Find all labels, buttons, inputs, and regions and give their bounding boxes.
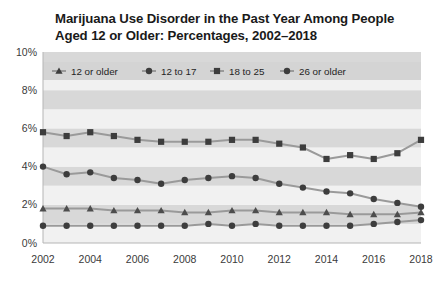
x-tick-label: 2002 xyxy=(31,253,55,265)
data-point-marker xyxy=(229,173,235,179)
data-point-marker xyxy=(40,129,46,135)
data-point-marker xyxy=(229,137,235,143)
y-tick-label: 0% xyxy=(22,237,37,249)
data-point-marker xyxy=(87,223,93,229)
legend-label: 12 or older xyxy=(71,66,119,77)
y-tick-label: 4% xyxy=(22,160,37,172)
x-tick-label: 2004 xyxy=(79,253,103,265)
x-tick-label: 2008 xyxy=(173,253,197,265)
data-point-marker xyxy=(276,181,282,187)
x-tick-label: 2016 xyxy=(362,253,386,265)
data-point-marker xyxy=(205,221,211,227)
data-point-marker xyxy=(418,217,424,223)
x-tick-label: 2006 xyxy=(126,253,150,265)
legend-label: 26 or older xyxy=(299,66,347,77)
data-point-marker xyxy=(347,152,353,158)
data-point-marker xyxy=(276,223,282,229)
data-point-marker xyxy=(134,137,140,143)
data-point-marker xyxy=(134,223,140,229)
data-point-marker xyxy=(300,184,306,190)
data-point-marker xyxy=(252,175,258,181)
data-point-marker xyxy=(253,137,259,143)
data-point-marker xyxy=(229,223,235,229)
legend-marker-square-icon xyxy=(214,68,220,74)
legend-marker-circle-icon xyxy=(284,68,290,74)
y-tick-label: 2% xyxy=(22,198,37,210)
x-tick-label: 2014 xyxy=(315,253,339,265)
data-point-marker xyxy=(111,223,117,229)
data-point-marker xyxy=(64,133,70,139)
data-point-marker xyxy=(418,204,424,210)
data-point-marker xyxy=(347,190,353,196)
y-axis-tick-labels: 0%2%4%6%8%10% xyxy=(16,46,37,249)
x-tick-label: 2010 xyxy=(220,253,244,265)
data-point-marker xyxy=(276,141,282,147)
data-point-marker xyxy=(63,223,69,229)
data-point-marker xyxy=(87,169,93,175)
data-point-marker xyxy=(252,221,258,227)
y-tick-label: 6% xyxy=(22,122,37,134)
data-point-marker xyxy=(158,223,164,229)
data-point-marker xyxy=(205,139,211,145)
x-tick-label: 2012 xyxy=(268,253,292,265)
data-point-marker xyxy=(87,129,93,135)
data-point-marker xyxy=(300,144,306,150)
data-point-marker xyxy=(40,163,46,169)
data-point-marker xyxy=(418,137,424,143)
data-point-marker xyxy=(205,175,211,181)
line-chart-plot: 0%2%4%6%8%10% 20022004200620082010201220… xyxy=(0,0,438,301)
data-point-marker xyxy=(40,223,46,229)
data-point-marker xyxy=(323,223,329,229)
data-point-marker xyxy=(158,181,164,187)
data-point-marker xyxy=(111,175,117,181)
legend-label: 18 to 25 xyxy=(229,66,265,77)
y-tick-label: 10% xyxy=(16,46,37,58)
data-point-marker xyxy=(182,139,188,145)
chart-figure: Marijuana Use Disorder in the Past Year … xyxy=(0,0,438,301)
x-axis-tick-labels: 200220042006200820102012201420162018 xyxy=(31,253,433,265)
data-point-marker xyxy=(394,219,400,225)
data-point-marker xyxy=(347,223,353,229)
data-point-marker xyxy=(182,223,188,229)
legend-marker-circle-icon xyxy=(146,68,152,74)
data-point-marker xyxy=(371,156,377,162)
data-point-marker xyxy=(111,133,117,139)
data-point-marker xyxy=(323,156,329,162)
data-point-marker xyxy=(371,221,377,227)
data-point-marker xyxy=(323,188,329,194)
data-point-marker xyxy=(134,177,140,183)
data-point-marker xyxy=(394,200,400,206)
data-point-marker xyxy=(394,150,400,156)
y-tick-label: 8% xyxy=(22,84,37,96)
data-point-marker xyxy=(158,139,164,145)
data-point-marker xyxy=(371,196,377,202)
legend-label: 12 to 17 xyxy=(161,66,196,77)
x-tick-label: 2018 xyxy=(409,253,433,265)
data-point-marker xyxy=(300,223,306,229)
data-point-marker xyxy=(182,177,188,183)
data-point-marker xyxy=(63,171,69,177)
